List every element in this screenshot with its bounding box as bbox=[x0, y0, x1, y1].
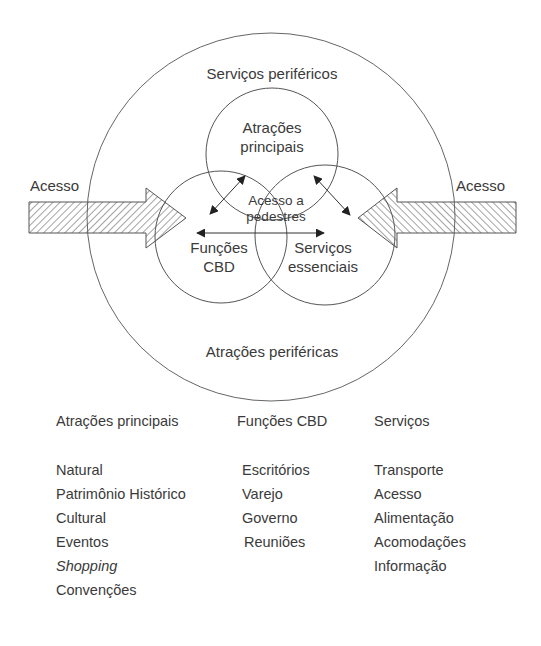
label-atracoes-principais-line2: principais bbox=[240, 137, 303, 156]
legend-item: Cultural bbox=[56, 509, 186, 533]
legend-item: Acesso bbox=[374, 485, 466, 509]
circle-servicos-essenciais bbox=[255, 165, 395, 305]
legend-heading: Atrações principais bbox=[56, 412, 186, 430]
label-servicos-perifericos: Serviços periféricos bbox=[207, 65, 338, 83]
legend-item: Reuniões bbox=[237, 533, 327, 557]
legend-item: Transporte bbox=[374, 461, 466, 485]
tourism-district-diagram: Serviços periféricos Atrações principais… bbox=[0, 0, 541, 420]
label-funcoes-cbd-line2: CBD bbox=[190, 257, 248, 276]
label-acesso-pedestres: Acesso a pedestres bbox=[246, 193, 305, 225]
legend-heading: Serviços bbox=[374, 412, 466, 430]
legend-item: Governo bbox=[237, 509, 327, 533]
label-acesso-left: Acesso bbox=[30, 177, 79, 195]
legend-item: Informação bbox=[374, 557, 466, 581]
legend-item: Varejo bbox=[237, 485, 327, 509]
legend-column-funcoes-cbd: Funções CBD Escritórios Varejo Governo R… bbox=[237, 412, 327, 557]
legend-column-atracoes-principais: Atrações principais Natural Patrimônio H… bbox=[56, 412, 186, 605]
label-acesso-pedestres-line2: pedestres bbox=[246, 209, 305, 225]
label-funcoes-cbd: Funções CBD bbox=[190, 238, 248, 276]
label-atracoes-principais-line1: Atrações bbox=[240, 118, 303, 137]
label-servicos-essenciais-line1: Serviços bbox=[288, 238, 358, 257]
legend-item: Convenções bbox=[56, 581, 186, 605]
label-servicos-essenciais-line2: essenciais bbox=[288, 257, 358, 276]
label-funcoes-cbd-line1: Funções bbox=[190, 238, 248, 257]
label-acesso-right: Acesso bbox=[456, 177, 505, 195]
legend-item: Shopping bbox=[56, 557, 186, 581]
legend-item: Acomodações bbox=[374, 533, 466, 557]
label-servicos-essenciais: Serviços essenciais bbox=[288, 238, 358, 276]
legend-column-servicos: Serviços Transporte Acesso Alimentação A… bbox=[374, 412, 466, 581]
label-acesso-pedestres-line1: Acesso a bbox=[246, 193, 305, 209]
legend-heading: Funções CBD bbox=[237, 412, 327, 430]
label-atracoes-principais: Atrações principais bbox=[240, 118, 303, 156]
legend-item: Natural bbox=[56, 461, 186, 485]
double-arrow-top-left-icon bbox=[210, 176, 245, 214]
right-access-arrow-icon bbox=[358, 188, 516, 248]
legend-item: Escritórios bbox=[237, 461, 327, 485]
label-atracoes-perifericas: Atrações periféricas bbox=[206, 343, 339, 361]
circle-funcoes-cbd bbox=[155, 171, 287, 303]
left-access-arrow-icon bbox=[29, 188, 186, 248]
legend-item: Alimentação bbox=[374, 509, 466, 533]
legend-item: Patrimônio Histórico bbox=[56, 485, 186, 509]
legend-item: Eventos bbox=[56, 533, 186, 557]
